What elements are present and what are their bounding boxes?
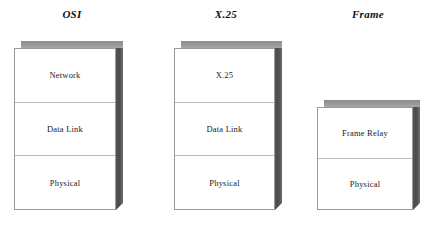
layer-row: Network — [15, 49, 115, 103]
stack-front-face-frame: Frame Relay Physical — [317, 107, 413, 210]
layer-row: Physical — [175, 156, 274, 209]
stack-front-face-x25: X.25 Data Link Physical — [174, 48, 275, 210]
stack-title-osi: OSI — [42, 8, 102, 20]
layer-row: Data Link — [175, 103, 274, 157]
layer-row: Physical — [318, 159, 412, 209]
stack-bevel-top-left-osi — [14, 41, 21, 48]
protocol-stack-osi: Network Data Link Physical — [14, 41, 123, 210]
layer-label: Data Link — [206, 124, 242, 134]
stack-bevel-top-left-x25 — [174, 41, 181, 48]
layer-label: Data Link — [47, 124, 83, 134]
layer-label: Frame Relay — [342, 128, 388, 138]
layer-row: X.25 — [175, 49, 274, 103]
diagram-canvas: OSI Network Data Link Physical X.25 X.25 — [0, 0, 436, 226]
stack-top-face-osi — [21, 41, 123, 48]
layer-label: Physical — [50, 178, 80, 188]
stack-bevel-bottom-right-x25 — [275, 203, 282, 210]
stack-bevel-bottom-right-osi — [116, 203, 123, 210]
stack-side-face-frame — [413, 107, 420, 210]
stack-title-frame: Frame — [338, 8, 398, 20]
stack-front-face-osi: Network Data Link Physical — [14, 48, 116, 210]
stack-top-face-x25 — [181, 41, 282, 48]
layer-label: X.25 — [216, 70, 234, 80]
stack-bevel-bottom-right-frame — [413, 203, 420, 210]
protocol-stack-frame: Frame Relay Physical — [317, 100, 420, 210]
stack-side-face-osi — [116, 48, 123, 210]
stack-top-face-frame — [324, 100, 420, 107]
layer-label: Network — [49, 70, 80, 80]
layer-row: Frame Relay — [318, 108, 412, 159]
protocol-stack-x25: X.25 Data Link Physical — [174, 41, 282, 210]
stack-side-face-x25 — [275, 48, 282, 210]
layer-label: Physical — [350, 179, 380, 189]
stack-title-x25: X.25 — [196, 8, 256, 20]
layer-row: Physical — [15, 156, 115, 209]
layer-label: Physical — [209, 178, 239, 188]
layer-row: Data Link — [15, 103, 115, 157]
stack-bevel-top-left-frame — [317, 100, 324, 107]
